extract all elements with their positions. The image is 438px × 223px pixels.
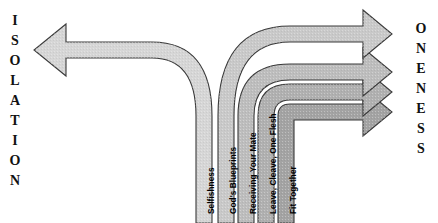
bar-label-gods-blueprints: God's Blueprints xyxy=(229,147,238,214)
bar-label-receiving-your-mate: Receiving Your Mate xyxy=(249,132,258,214)
bar-label-leave-cleave-one-flesh: Leave, Cleave, One Flesh xyxy=(269,113,278,214)
arrow-selfishness xyxy=(34,24,212,223)
bar-label-selfishness: Selfishness xyxy=(207,167,216,214)
arrows-graphic xyxy=(0,0,438,223)
bar-label-fit-together: Fit Together xyxy=(289,166,298,214)
diagram-canvas: I S O L A T I O N O N E N E S S xyxy=(0,0,438,223)
